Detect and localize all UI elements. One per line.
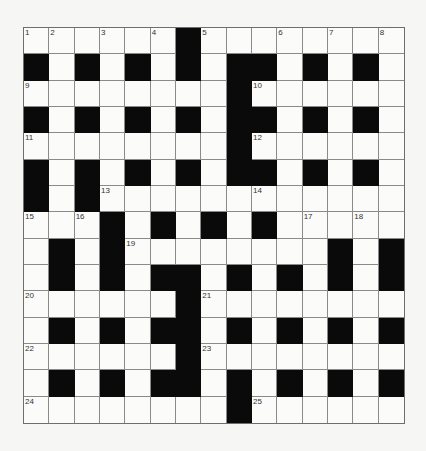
grid-cell[interactable] [277,107,302,133]
grid-cell[interactable] [75,133,100,159]
grid-cell[interactable] [201,81,226,107]
grid-cell[interactable] [49,344,74,370]
grid-cell[interactable] [151,397,176,423]
grid-cell[interactable] [201,265,226,291]
grid-cell[interactable] [303,344,328,370]
grid-cell[interactable] [75,318,100,344]
grid-cell[interactable] [328,397,353,423]
grid-cell[interactable] [49,133,74,159]
grid-cell[interactable]: 25 [252,397,277,423]
grid-cell[interactable] [151,81,176,107]
grid-cell[interactable] [379,160,404,186]
grid-cell[interactable] [125,370,150,396]
grid-cell[interactable] [75,239,100,265]
grid-cell[interactable] [379,186,404,212]
grid-cell[interactable] [125,212,150,238]
grid-cell[interactable]: 24 [24,397,49,423]
grid-cell[interactable]: 1 [24,28,49,54]
grid-cell[interactable] [151,133,176,159]
grid-cell[interactable] [379,212,404,238]
grid-cell[interactable]: 8 [379,28,404,54]
grid-cell[interactable] [227,212,252,238]
grid-cell[interactable] [328,160,353,186]
grid-cell[interactable] [379,133,404,159]
grid-cell[interactable] [328,291,353,317]
grid-cell[interactable] [100,397,125,423]
grid-cell[interactable] [379,54,404,80]
grid-cell[interactable] [100,344,125,370]
grid-cell[interactable] [151,344,176,370]
grid-cell[interactable] [303,397,328,423]
grid-cell[interactable]: 3 [100,28,125,54]
grid-cell[interactable] [227,344,252,370]
grid-cell[interactable] [201,133,226,159]
grid-cell[interactable] [303,81,328,107]
grid-cell[interactable] [303,239,328,265]
grid-cell[interactable]: 6 [277,28,302,54]
grid-cell[interactable] [201,239,226,265]
grid-cell[interactable] [277,397,302,423]
grid-cell[interactable] [49,81,74,107]
grid-cell[interactable] [49,160,74,186]
grid-cell[interactable]: 2 [49,28,74,54]
grid-cell[interactable] [353,28,378,54]
grid-cell[interactable] [125,344,150,370]
grid-cell[interactable] [176,397,201,423]
grid-cell[interactable] [277,344,302,370]
grid-cell[interactable] [252,28,277,54]
grid-cell[interactable] [201,397,226,423]
grid-cell[interactable] [353,291,378,317]
grid-cell[interactable] [125,397,150,423]
grid-cell[interactable] [151,160,176,186]
grid-cell[interactable] [379,107,404,133]
grid-cell[interactable]: 13 [100,186,125,212]
grid-cell[interactable] [100,54,125,80]
grid-cell[interactable] [227,28,252,54]
grid-cell[interactable] [303,265,328,291]
grid-cell[interactable]: 4 [151,28,176,54]
grid-cell[interactable] [277,81,302,107]
grid-cell[interactable] [353,344,378,370]
grid-cell[interactable] [328,133,353,159]
grid-cell[interactable]: 9 [24,81,49,107]
grid-cell[interactable] [24,370,49,396]
grid-cell[interactable] [252,265,277,291]
grid-cell[interactable] [353,318,378,344]
grid-cell[interactable] [201,54,226,80]
grid-cell[interactable] [227,291,252,317]
grid-cell[interactable] [176,239,201,265]
grid-cell[interactable] [24,239,49,265]
grid-cell[interactable] [353,265,378,291]
grid-cell[interactable] [49,397,74,423]
grid-cell[interactable] [227,186,252,212]
grid-cell[interactable] [353,81,378,107]
grid-cell[interactable] [49,291,74,317]
grid-cell[interactable] [303,370,328,396]
grid-cell[interactable] [252,291,277,317]
grid-cell[interactable] [379,344,404,370]
grid-cell[interactable] [125,28,150,54]
grid-cell[interactable]: 19 [125,239,150,265]
grid-cell[interactable]: 12 [252,133,277,159]
grid-cell[interactable] [24,265,49,291]
grid-cell[interactable] [125,265,150,291]
grid-cell[interactable] [125,133,150,159]
grid-cell[interactable] [49,212,74,238]
grid-cell[interactable] [328,107,353,133]
grid-cell[interactable] [201,160,226,186]
grid-cell[interactable]: 21 [201,291,226,317]
grid-cell[interactable]: 11 [24,133,49,159]
grid-cell[interactable] [24,318,49,344]
grid-cell[interactable]: 5 [201,28,226,54]
grid-cell[interactable] [303,28,328,54]
grid-cell[interactable] [201,318,226,344]
grid-cell[interactable] [277,239,302,265]
grid-cell[interactable] [252,318,277,344]
grid-cell[interactable] [151,239,176,265]
grid-cell[interactable] [100,291,125,317]
grid-cell[interactable] [303,318,328,344]
grid-cell[interactable] [328,186,353,212]
grid-cell[interactable] [176,186,201,212]
grid-cell[interactable] [277,291,302,317]
grid-cell[interactable] [252,370,277,396]
